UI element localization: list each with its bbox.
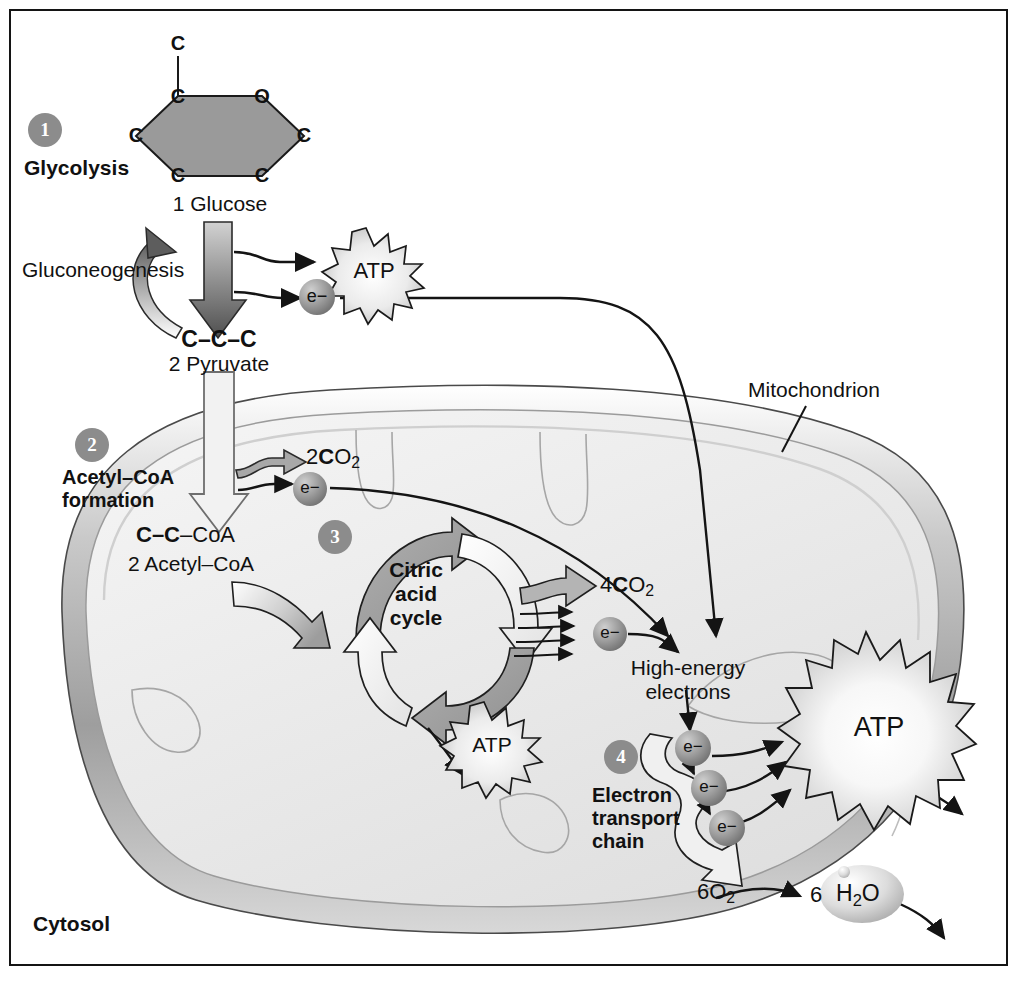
step-badge-1: 1: [28, 113, 62, 147]
co2-citric-label: 4CO2: [600, 572, 654, 600]
step-label-citric-acid-cycle: Citric acid cycle: [389, 558, 443, 630]
co2-acetyl-label: 2CO2: [306, 444, 360, 472]
step-badge-2: 2: [75, 428, 109, 462]
acetyl-coa-formula-bold: C–C: [136, 522, 180, 547]
water-count-label: 6: [810, 882, 822, 907]
cytosol-label: Cytosol: [33, 912, 110, 936]
electron-label-etc-3: e−: [717, 817, 736, 836]
electron-label-citric: e−: [600, 623, 619, 642]
electron-label-glycolysis: e−: [307, 286, 328, 307]
electron-label-etc-2: e−: [699, 777, 718, 796]
step-badge-3: 3: [318, 520, 352, 554]
acetyl-coa-formula-tail: –CoA: [180, 522, 235, 547]
step-label-electron-transport-chain: Electron transport chain: [592, 784, 680, 852]
acetyl-coa-label: 2 Acetyl–CoA: [128, 552, 254, 576]
water-droplet-bubble: [838, 866, 850, 878]
step-badge-4: 4: [604, 740, 638, 774]
pyruvate-label: 2 Pyruvate: [169, 352, 269, 376]
acetyl-coa-formula: C–C–CoA: [136, 522, 235, 547]
electron-label-acetyl: e−: [300, 478, 319, 497]
water-label: H2O: [836, 880, 880, 911]
step-label-glycolysis: Glycolysis: [24, 156, 129, 180]
high-energy-electrons-label: High-energy electrons: [631, 656, 745, 704]
figure-canvas: C C O C C C C 1 Glucose: [0, 0, 1017, 983]
pyruvate-formula: C–C–C: [181, 326, 256, 352]
step-label-acetyl-coa-formation: Acetyl–CoA formation: [62, 466, 174, 512]
mitochondrion-label: Mitochondrion: [748, 378, 880, 402]
electron-label-etc-1: e−: [683, 737, 702, 756]
oxygen-label: 6O2: [697, 879, 735, 907]
gluconeogenesis-label: Gluconeogenesis: [22, 258, 184, 282]
